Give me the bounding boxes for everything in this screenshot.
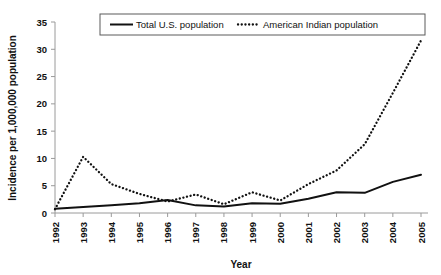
x-axis-title: Year bbox=[230, 259, 251, 270]
series-line-total-us-population bbox=[55, 175, 421, 209]
x-tick-label: 1994 bbox=[106, 221, 117, 243]
y-tick-label: 25 bbox=[36, 71, 47, 82]
y-tick-label: 5 bbox=[42, 180, 48, 191]
x-tick-label: 1992 bbox=[50, 222, 61, 243]
y-tick-label: 10 bbox=[36, 153, 47, 164]
x-tick-label: 2001 bbox=[303, 221, 314, 243]
x-tick-label: 2002 bbox=[331, 222, 342, 243]
y-axis-title: Incidence per 1,000,000 population bbox=[7, 35, 18, 201]
y-tick-label: 30 bbox=[36, 44, 47, 55]
x-tick-label: 1993 bbox=[78, 222, 89, 243]
line-chart: 05101520253035 1992199319941995199619971… bbox=[0, 0, 441, 275]
y-tick-label: 0 bbox=[42, 208, 47, 219]
x-tick-label: 2003 bbox=[359, 222, 370, 243]
y-tick-label: 35 bbox=[36, 17, 47, 28]
legend-label-0: Total U.S. population bbox=[136, 19, 224, 30]
x-tick-label: 1997 bbox=[190, 222, 201, 243]
x-tick-label: 1995 bbox=[134, 221, 145, 243]
chart-container: 05101520253035 1992199319941995199619971… bbox=[0, 0, 441, 275]
x-tick-label: 2000 bbox=[275, 222, 286, 243]
x-tick-label: 1996 bbox=[162, 222, 173, 243]
x-axis-ticks: 1992199319941995199619971998199920002001… bbox=[50, 213, 427, 243]
series-line-american-indian-population bbox=[55, 41, 421, 210]
legend-label-1: American Indian population bbox=[263, 19, 378, 30]
y-tick-label: 20 bbox=[36, 98, 47, 109]
x-tick-label: 1998 bbox=[218, 222, 229, 243]
y-tick-label: 15 bbox=[36, 126, 47, 137]
x-tick-label: 2005 bbox=[416, 221, 427, 243]
x-tick-label: 1999 bbox=[247, 222, 258, 243]
y-axis-ticks: 05101520253035 bbox=[36, 17, 55, 219]
x-tick-label: 2004 bbox=[387, 221, 398, 243]
chart-legend: Total U.S. population American Indian po… bbox=[100, 14, 425, 35]
